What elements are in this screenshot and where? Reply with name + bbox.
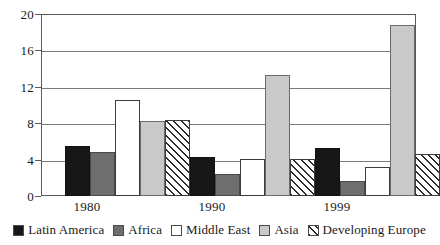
bar-1980-middle-east (115, 100, 140, 197)
bar-1980-africa (90, 152, 115, 196)
legend-label-latin-america: Latin America (28, 223, 104, 237)
legend-label-asia: Asia (274, 223, 298, 237)
x-tick-label-1990: 1990 (172, 200, 252, 214)
bar-1990-latin-america (190, 157, 215, 196)
y-tick-label-8: 8 (0, 117, 34, 130)
legend-item-asia: Asia (259, 223, 298, 237)
bar-1990-developing-europe (290, 159, 315, 196)
y-tick-label-20: 20 (0, 8, 34, 21)
legend-swatch-icon-latin-america (13, 225, 24, 236)
x-tick-label-1980: 1980 (47, 200, 127, 214)
legend-item-latin-america: Latin America (13, 223, 104, 237)
y-tick-mark-0 (35, 196, 41, 197)
bar-1999-middle-east (365, 167, 390, 196)
legend-label-middle-east: Middle East (186, 223, 250, 237)
legend-label-africa: Africa (128, 223, 162, 237)
legend: Latin America Africa Middle East Asia De… (0, 219, 439, 241)
bar-1990-middle-east (240, 159, 265, 196)
x-tick-label-1999: 1999 (297, 200, 377, 214)
legend-item-africa: Africa (113, 223, 162, 237)
bars-layer (41, 14, 416, 196)
bar-1999-developing-europe (415, 154, 440, 196)
y-tick-label-4: 4 (0, 154, 34, 167)
bar-1980-developing-europe (165, 120, 190, 196)
bar-1999-latin-america (315, 148, 340, 196)
bar-1980-latin-america (65, 146, 90, 196)
bar-1999-asia (390, 25, 415, 196)
legend-item-middle-east: Middle East (171, 223, 250, 237)
bar-1999-africa (340, 181, 365, 196)
legend-swatch-icon-africa (113, 225, 124, 236)
legend-swatch-icon-asia (259, 225, 270, 236)
y-tick-label-16: 16 (0, 44, 34, 57)
legend-label-developing-europe: Developing Europe (323, 223, 426, 237)
y-tick-label-0: 0 (0, 190, 34, 203)
legend-swatch-icon-developing-europe (308, 225, 319, 236)
legend-swatch-icon-middle-east (171, 225, 182, 236)
bar-1990-africa (215, 174, 240, 196)
bar-1990-asia (265, 75, 290, 196)
y-axis: 20 16 12 8 4 0 (0, 0, 34, 245)
y-tick-label-12: 12 (0, 81, 34, 94)
legend-item-developing-europe: Developing Europe (308, 223, 426, 237)
bar-1980-asia (140, 121, 165, 197)
